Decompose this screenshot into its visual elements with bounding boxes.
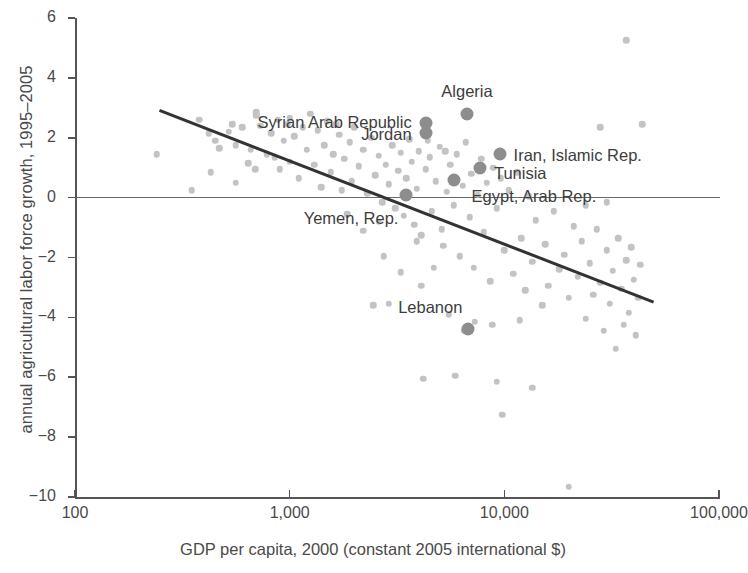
data-point <box>570 223 577 230</box>
data-point <box>623 257 630 264</box>
data-point <box>621 322 628 329</box>
data-point <box>440 242 447 249</box>
highlighted-data-point[interactable] <box>473 161 486 174</box>
data-point <box>510 271 517 278</box>
data-point <box>587 260 594 267</box>
data-point <box>459 182 466 189</box>
data-point <box>208 169 215 176</box>
data-point <box>542 241 549 248</box>
data-point <box>566 483 573 490</box>
data-point <box>370 302 377 309</box>
y-axis-tick <box>68 197 75 199</box>
data-point <box>462 139 469 146</box>
data-point <box>466 214 473 221</box>
x-axis-tick-label: 10,000 <box>480 504 529 522</box>
highlighted-data-point[interactable] <box>419 127 432 140</box>
data-point <box>281 137 288 144</box>
data-point <box>382 161 389 168</box>
data-point <box>447 161 454 168</box>
data-point <box>604 199 611 206</box>
y-axis-tick <box>68 257 75 259</box>
data-point-label: Jordan <box>361 125 411 144</box>
data-point <box>639 121 646 128</box>
data-point-label: Yemen, Rep. <box>304 209 399 228</box>
data-point <box>612 346 619 353</box>
data-point <box>295 175 302 182</box>
data-point <box>545 283 552 290</box>
data-point <box>444 188 451 195</box>
y-axis-tick <box>68 376 75 378</box>
data-point-label: Tunisia <box>494 164 547 183</box>
highlighted-data-point[interactable] <box>447 173 460 186</box>
data-point <box>379 199 386 206</box>
highlighted-data-point[interactable] <box>400 188 413 201</box>
y-axis-tick <box>68 436 75 438</box>
y-axis-tick-label: −4 <box>20 307 56 325</box>
data-point <box>633 332 640 339</box>
y-axis-tick-label: −10 <box>20 487 56 505</box>
data-point <box>245 160 252 167</box>
data-point <box>551 208 558 215</box>
data-point <box>232 142 239 149</box>
data-point <box>604 247 611 254</box>
data-point <box>189 187 196 194</box>
x-axis-tick-label: 100,000 <box>690 504 748 522</box>
data-point <box>418 232 425 239</box>
highlighted-data-point[interactable] <box>493 148 506 161</box>
data-point <box>341 155 348 162</box>
data-point <box>386 301 393 308</box>
data-point <box>395 167 402 174</box>
data-point <box>637 262 644 269</box>
data-point <box>487 278 494 285</box>
data-point <box>212 137 219 144</box>
data-point <box>339 187 346 194</box>
data-point <box>403 175 410 182</box>
data-point-label: Egypt, Arab Rep. <box>472 187 597 206</box>
data-point <box>522 287 529 294</box>
data-point <box>398 269 405 276</box>
y-axis-tick-label: −2 <box>20 248 56 266</box>
data-point-label: Iran, Islamic Rep. <box>514 146 642 165</box>
data-point <box>452 373 459 380</box>
x-axis-tick <box>289 490 291 497</box>
data-point-label: Lebanon <box>398 298 462 317</box>
y-axis-tick <box>68 137 75 139</box>
data-point <box>427 154 434 161</box>
data-point <box>346 139 353 146</box>
data-point <box>468 170 475 177</box>
data-point <box>422 166 429 173</box>
data-point <box>229 121 236 128</box>
data-point <box>623 37 630 44</box>
data-point <box>493 205 500 212</box>
x-axis-tick <box>504 490 506 497</box>
y-axis-line <box>75 18 77 498</box>
data-point <box>450 202 457 209</box>
highlighted-data-point[interactable] <box>460 107 473 120</box>
data-point <box>517 317 524 324</box>
data-point <box>239 124 246 131</box>
data-point <box>398 149 405 156</box>
data-point <box>626 310 633 317</box>
data-point <box>408 158 415 165</box>
data-point <box>615 235 622 242</box>
data-point <box>291 133 298 140</box>
data-point <box>277 166 284 173</box>
data-point <box>153 151 160 158</box>
data-point <box>401 212 408 219</box>
data-point <box>356 163 363 170</box>
highlighted-data-point[interactable] <box>462 323 475 336</box>
data-point <box>539 302 546 309</box>
data-point <box>579 238 586 245</box>
data-point <box>321 142 328 149</box>
y-axis-tick <box>68 17 75 19</box>
y-axis-tick <box>68 317 75 319</box>
y-axis-tick-label: −6 <box>20 367 56 385</box>
data-point <box>501 247 508 254</box>
x-axis-tick-label: 100 <box>62 504 89 522</box>
zero-reference-line <box>75 197 720 198</box>
data-point <box>431 265 438 272</box>
y-axis-tick-label: 6 <box>20 8 56 26</box>
data-point <box>413 238 420 245</box>
data-point <box>499 411 506 418</box>
